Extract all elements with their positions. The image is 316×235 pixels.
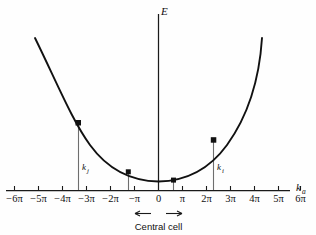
y-axis-label: E bbox=[160, 5, 168, 17]
energy-band-parabola-figure: −6π −5π −4π −3π −2π −π 0 π 2π 3π 4π 5π 6… bbox=[0, 0, 316, 235]
central-cell-annotation: Central cell bbox=[135, 211, 183, 232]
marker-kj bbox=[76, 120, 82, 126]
tick-label-minus-pi: −π bbox=[129, 193, 141, 204]
x-axis-ticks bbox=[15, 186, 301, 191]
tick-label-minus-5pi: −5π bbox=[30, 193, 47, 204]
central-cell-label: Central cell bbox=[135, 221, 183, 232]
x-axis-label-sub-a: a bbox=[302, 187, 306, 196]
label-ki-sub: i bbox=[222, 167, 224, 175]
label-kj: k j bbox=[82, 162, 89, 175]
tick-label-3pi: 3π bbox=[225, 193, 236, 204]
tick-label-zero: 0 bbox=[156, 193, 161, 204]
dispersion-plot: −6π −5π −4π −3π −2π −π 0 π 2π 3π 4π 5π 6… bbox=[0, 0, 316, 235]
label-kj-sub: j bbox=[86, 167, 89, 175]
dispersion-curve bbox=[35, 38, 262, 182]
marker-minus-pi bbox=[126, 169, 131, 174]
marker-plus-half-pi bbox=[171, 178, 176, 183]
tick-label-5pi: 5π bbox=[273, 193, 284, 204]
tick-label-minus-2pi: −2π bbox=[102, 193, 119, 204]
tick-label-minus-4pi: −4π bbox=[54, 193, 71, 204]
tick-label-minus-6pi: −6π bbox=[6, 193, 23, 204]
label-ki: k i bbox=[217, 162, 224, 175]
tick-label-4pi: 4π bbox=[249, 193, 260, 204]
marker-ki bbox=[211, 137, 217, 143]
tick-label-minus-3pi: −3π bbox=[78, 193, 95, 204]
tick-label-pi: π bbox=[180, 193, 186, 204]
tick-label-2pi: 2π bbox=[201, 193, 212, 204]
